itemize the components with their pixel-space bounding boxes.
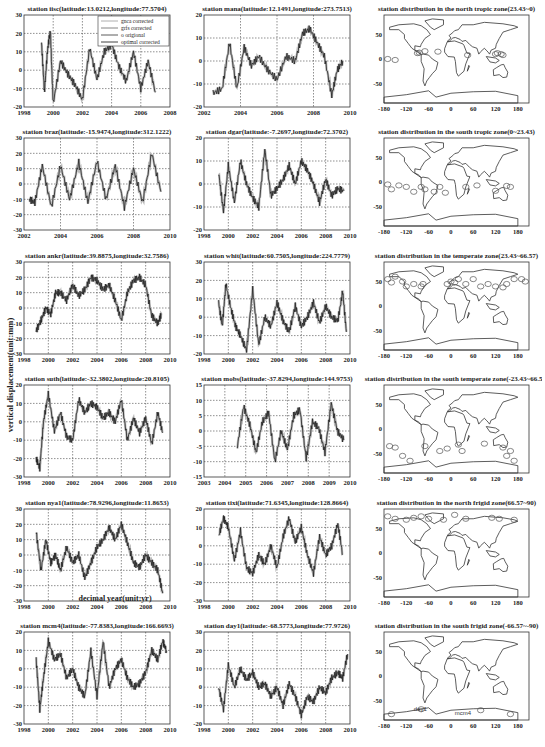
svg-text:2000: 2000: [222, 232, 235, 239]
svg-text:-10: -10: [193, 702, 202, 709]
svg-text:2004: 2004: [271, 356, 285, 363]
panel-title: station iisc(latitude:13.0212,longitude:…: [27, 5, 167, 13]
svg-text:2000: 2000: [42, 603, 55, 610]
svg-text:60: 60: [470, 105, 477, 112]
svg-text:-180: -180: [378, 352, 390, 359]
svg-text:0: 0: [199, 313, 202, 320]
svg-text:120: 120: [491, 352, 501, 359]
timeseries-panel: station mcm4(latitude:-77.8383,longitude…: [0, 617, 180, 741]
panel-title: station suth(latitude:-32.3802,longitude…: [25, 375, 170, 383]
svg-text:2010: 2010: [344, 232, 357, 239]
figure-grid: station iisc(latitude:13.0212,longitude:…: [0, 0, 545, 747]
svg-text:-10: -10: [13, 567, 22, 574]
svg-text:-50: -50: [373, 80, 382, 87]
svg-text:2006: 2006: [115, 726, 129, 733]
y-axis-label: vertical displacement(unit:mm): [5, 305, 15, 445]
svg-text:mcm4: mcm4: [455, 710, 472, 716]
svg-text:-20: -20: [13, 103, 22, 110]
svg-text:2000: 2000: [42, 726, 55, 733]
svg-text:10: 10: [16, 400, 23, 407]
svg-text:day1: day1: [414, 706, 428, 712]
svg-text:20: 20: [196, 505, 203, 512]
svg-text:optimal corrected: optimal corrected: [121, 39, 160, 45]
svg-text:20: 20: [196, 647, 203, 654]
svg-text:-50: -50: [373, 697, 382, 704]
timeseries-panel: station day1(latitude:-68.5773,longitude…: [180, 617, 360, 741]
svg-text:10: 10: [16, 647, 23, 654]
svg-text:120: 120: [491, 722, 501, 729]
svg-text:10: 10: [196, 397, 203, 404]
svg-text:2008: 2008: [139, 726, 153, 733]
svg-text:-30: -30: [13, 720, 22, 727]
svg-text:2010: 2010: [344, 109, 357, 116]
svg-text:2006: 2006: [295, 232, 309, 239]
svg-text:60: 60: [470, 722, 477, 729]
svg-text:10: 10: [196, 295, 203, 302]
svg-text:50: 50: [376, 525, 383, 532]
svg-text:0: 0: [379, 425, 382, 432]
svg-text:0: 0: [19, 180, 22, 187]
svg-text:2008: 2008: [319, 232, 333, 239]
svg-text:2008: 2008: [139, 479, 153, 486]
svg-text:50: 50: [376, 154, 383, 161]
svg-text:-60: -60: [424, 722, 433, 729]
svg-text:2000: 2000: [42, 356, 55, 363]
panel-title: station distribution in the south frigid…: [375, 622, 539, 630]
svg-text:2008: 2008: [319, 603, 333, 610]
svg-text:-60: -60: [424, 105, 433, 112]
svg-text:0: 0: [449, 722, 452, 729]
svg-text:-50: -50: [373, 450, 382, 457]
svg-text:0: 0: [199, 180, 202, 187]
timeseries-panel: station mobs(latitude:-37.8294,longitude…: [180, 370, 360, 494]
svg-text:0: 0: [449, 599, 452, 606]
svg-text:-10: -10: [13, 683, 22, 690]
svg-text:2004: 2004: [218, 479, 232, 486]
panel-title: station distribution in the south temper…: [365, 375, 542, 383]
svg-text:-10: -10: [193, 203, 202, 210]
svg-text:-20: -20: [193, 350, 202, 357]
svg-text:0: 0: [199, 57, 202, 64]
svg-text:60: 60: [470, 352, 477, 359]
svg-text:20: 20: [16, 30, 23, 37]
svg-text:10: 10: [196, 34, 203, 41]
svg-text:-180: -180: [378, 722, 390, 729]
panel-title: station mobs(latitude:-37.8294,longitude…: [201, 375, 353, 383]
svg-text:30: 30: [196, 258, 203, 265]
svg-text:20: 20: [16, 274, 23, 281]
svg-text:2008: 2008: [139, 356, 153, 363]
svg-text:60: 60: [470, 599, 477, 606]
svg-text:-20: -20: [13, 582, 22, 589]
panel-title: station mcm4(latitude:-77.8383,longitude…: [20, 622, 174, 630]
svg-text:-180: -180: [378, 228, 390, 235]
timeseries-panel: station dgar(latitude:-7.2697,longitude:…: [180, 123, 360, 247]
svg-text:-120: -120: [400, 352, 412, 359]
svg-text:-50: -50: [373, 574, 382, 581]
svg-text:10: 10: [196, 524, 203, 531]
svg-text:2000: 2000: [222, 356, 235, 363]
svg-text:2002: 2002: [66, 356, 79, 363]
svg-text:-20: -20: [13, 211, 22, 218]
svg-text:2008: 2008: [139, 603, 153, 610]
svg-text:-60: -60: [424, 475, 433, 482]
svg-text:0: 0: [449, 105, 452, 112]
svg-text:20: 20: [16, 628, 23, 635]
svg-text:2006: 2006: [115, 356, 129, 363]
timeseries-panel: station suth(latitude:-32.3802,longitude…: [0, 370, 180, 494]
svg-text:2002: 2002: [246, 726, 259, 733]
svg-text:2006: 2006: [271, 109, 285, 116]
svg-text:50: 50: [376, 401, 383, 408]
svg-text:2006: 2006: [295, 726, 309, 733]
svg-text:180: 180: [513, 352, 523, 359]
svg-text:-120: -120: [400, 599, 412, 606]
svg-text:-10: -10: [193, 560, 202, 567]
svg-text:2004: 2004: [54, 232, 68, 239]
map-panel: station distribution in the north tropic…: [362, 0, 542, 124]
svg-text:-10: -10: [193, 332, 202, 339]
svg-text:20: 20: [16, 150, 23, 157]
svg-text:0: 0: [379, 55, 382, 62]
svg-text:120: 120: [491, 475, 501, 482]
svg-text:-180: -180: [378, 105, 390, 112]
svg-text:0: 0: [19, 304, 22, 311]
timeseries-panel: station mana(latitude:12.1491,longitude:…: [180, 0, 360, 124]
svg-text:2006: 2006: [115, 479, 129, 486]
